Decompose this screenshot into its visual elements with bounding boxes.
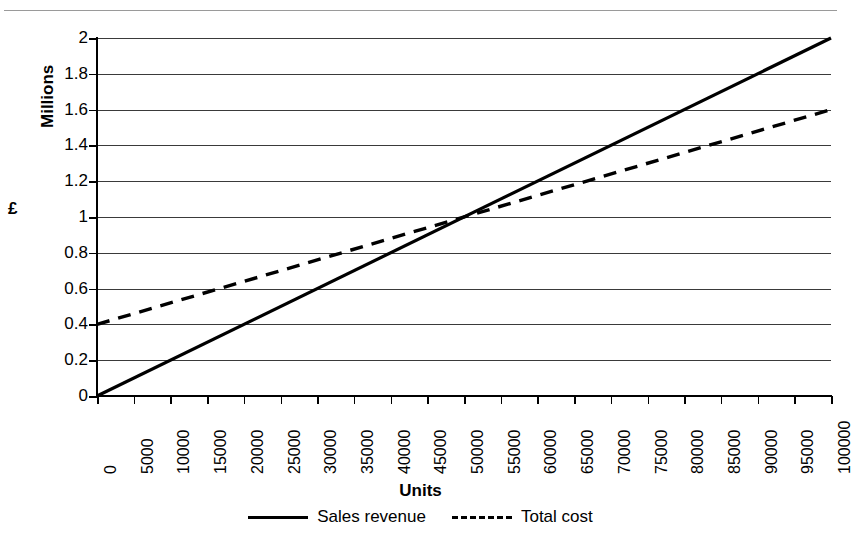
y-axis-tick-label: 0 xyxy=(28,387,88,404)
x-axis-tick-label: 20000 xyxy=(250,430,266,475)
x-axis-tick xyxy=(537,396,539,404)
x-axis-tick-label: 10000 xyxy=(176,430,192,475)
gridline xyxy=(97,289,831,290)
gridline xyxy=(97,74,831,75)
x-axis-tick-label: 80000 xyxy=(690,430,706,475)
y-axis-tick-label: 0.8 xyxy=(28,244,88,261)
x-axis-tick-label: 60000 xyxy=(543,430,559,475)
gridline xyxy=(97,110,831,111)
x-axis-tick-label: 35000 xyxy=(360,430,376,475)
x-axis-tick xyxy=(427,396,429,404)
x-axis-tick xyxy=(501,396,503,404)
y-axis-tick-label: 0.4 xyxy=(28,315,88,332)
x-axis-tick-label: 70000 xyxy=(617,430,633,475)
x-axis-tick xyxy=(97,396,99,404)
x-axis-tick-label: 100000 xyxy=(837,421,853,474)
x-axis-tick-label: 55000 xyxy=(507,430,523,475)
legend-swatch-dashed-line xyxy=(452,516,512,519)
plot-area xyxy=(97,38,831,396)
legend-label-total-cost: Total cost xyxy=(521,508,593,526)
x-axis-tick xyxy=(611,396,613,404)
y-axis-tick-label: 1.4 xyxy=(28,136,88,153)
gridline xyxy=(97,217,831,218)
x-axis-tick-label: 25000 xyxy=(287,430,303,475)
y-axis-line xyxy=(96,37,98,397)
x-axis-tick-label: 0 xyxy=(103,465,119,474)
x-axis-tick xyxy=(207,396,209,404)
y-axis-tick-label: 2 xyxy=(28,29,88,46)
x-axis-tick-label: 40000 xyxy=(397,430,413,475)
chart-legend: Sales revenue Total cost xyxy=(0,508,841,526)
gridline xyxy=(97,145,831,146)
legend-swatch-solid-line xyxy=(248,516,308,519)
x-axis-tick-label: 75000 xyxy=(654,430,670,475)
x-axis-tick xyxy=(134,396,136,404)
x-axis-tick xyxy=(574,396,576,404)
y-axis-title: £ xyxy=(8,199,17,219)
y-axis-tick-label: 1 xyxy=(28,208,88,225)
x-axis-title: Units xyxy=(0,481,841,501)
legend-label-sales-revenue: Sales revenue xyxy=(317,508,426,526)
x-axis-tick-label: 5000 xyxy=(140,438,156,474)
gridline xyxy=(97,360,831,361)
x-axis-tick xyxy=(391,396,393,404)
x-axis-tick-label: 15000 xyxy=(213,430,229,475)
x-axis-tick xyxy=(464,396,466,404)
top-divider-rule xyxy=(4,10,837,11)
x-axis-tick-label: 65000 xyxy=(580,430,596,475)
x-axis-tick xyxy=(170,396,172,404)
x-axis-tick-label: 30000 xyxy=(323,430,339,475)
y-axis-tick-label: 1.2 xyxy=(28,172,88,189)
x-axis-tick-label: 95000 xyxy=(800,430,816,475)
gridline xyxy=(97,38,831,39)
x-axis-tick xyxy=(758,396,760,404)
gridline xyxy=(97,324,831,325)
y-axis-tick-labels: 21.81.61.41.210.80.60.40.20 xyxy=(22,0,88,534)
x-axis-tick xyxy=(794,396,796,404)
x-axis-tick xyxy=(354,396,356,404)
y-axis-tick-label: 0.2 xyxy=(28,351,88,368)
legend-item-total-cost: Total cost xyxy=(452,508,593,526)
legend-item-sales-revenue: Sales revenue xyxy=(248,508,426,526)
x-axis-tick xyxy=(721,396,723,404)
gridline xyxy=(97,181,831,182)
x-axis-tick-label: 85000 xyxy=(727,430,743,475)
gridline xyxy=(97,253,831,254)
y-axis-tick-label: 1.8 xyxy=(28,65,88,82)
x-axis-tick xyxy=(831,396,833,404)
x-axis-tick-label: 50000 xyxy=(470,430,486,475)
x-axis-tick xyxy=(317,396,319,404)
y-axis-tick-label: 0.6 xyxy=(28,280,88,297)
x-axis-tick xyxy=(281,396,283,404)
y-axis-tick-label: 1.6 xyxy=(28,101,88,118)
x-axis-tick xyxy=(244,396,246,404)
x-axis-tick xyxy=(648,396,650,404)
x-axis-tick-label: 45000 xyxy=(433,430,449,475)
x-axis-tick-label: 90000 xyxy=(764,430,780,475)
x-axis-tick xyxy=(684,396,686,404)
